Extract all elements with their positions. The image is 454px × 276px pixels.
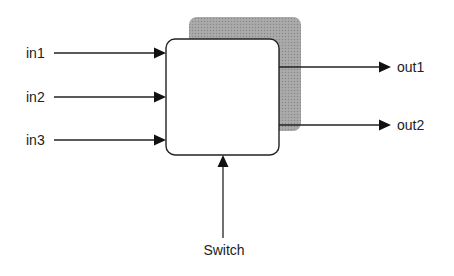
input-label-in2: in2 <box>26 89 45 105</box>
control-label-switch: Switch <box>203 242 244 258</box>
arrowhead-icon <box>154 92 166 103</box>
main-block <box>166 39 279 155</box>
input-in2: in2 <box>26 89 166 105</box>
arrowhead-icon <box>379 120 391 131</box>
output-label-out1: out1 <box>397 59 424 75</box>
switch-block-diagram: in1 in2 in3 out1 out2 Switch <box>0 0 454 276</box>
arrowhead-icon <box>218 155 229 167</box>
arrowhead-icon <box>379 62 391 73</box>
control-switch: Switch <box>203 155 244 258</box>
input-label-in3: in3 <box>26 132 45 148</box>
arrowhead-icon <box>154 48 166 59</box>
arrowhead-icon <box>154 135 166 146</box>
input-label-in1: in1 <box>26 45 45 61</box>
input-in3: in3 <box>26 132 166 148</box>
output-label-out2: out2 <box>397 117 424 133</box>
input-in1: in1 <box>26 45 166 61</box>
